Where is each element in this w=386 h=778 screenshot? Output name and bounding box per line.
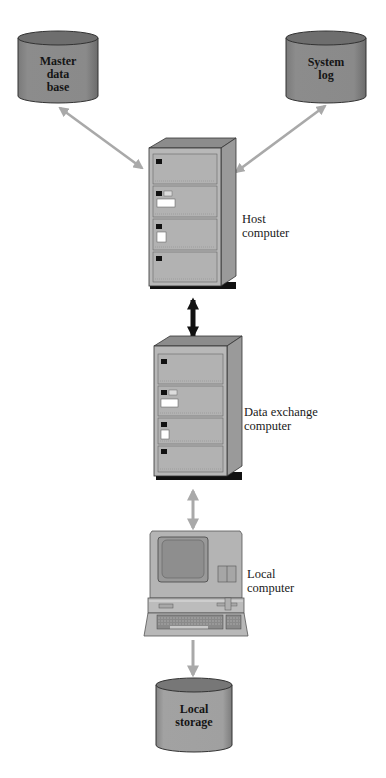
architecture-diagram xyxy=(0,0,386,778)
edge-host-system-log xyxy=(236,106,325,172)
system-log-label: System log xyxy=(286,56,366,82)
data-exchange-computer-label: Data exchange computer xyxy=(244,405,318,433)
edge-host-master-db xyxy=(60,108,142,168)
master-data-base-label: Master data base xyxy=(18,55,98,94)
host-computer-cabinet xyxy=(149,138,236,289)
local-computer-label: Local computer xyxy=(247,567,294,595)
data-exchange-computer-cabinet xyxy=(154,336,242,480)
local-computer-terminal xyxy=(144,531,248,636)
local-storage-label: Local storage xyxy=(156,703,232,729)
host-computer-label: Host computer xyxy=(242,212,289,240)
